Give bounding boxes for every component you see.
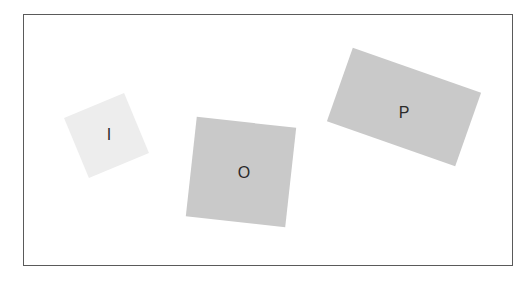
- card-p-label: P: [399, 105, 410, 121]
- card-o-label: O: [238, 165, 250, 181]
- card-i-label: I: [107, 127, 111, 143]
